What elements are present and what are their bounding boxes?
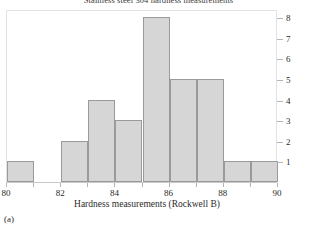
histogram-bar	[7, 161, 34, 182]
hardness-tick-mark	[169, 183, 170, 187]
hardness-tick-mark	[87, 183, 88, 187]
hardness-tick-mark	[33, 183, 34, 187]
hardness-tick-label: 80	[2, 189, 11, 198]
plot-area	[6, 10, 277, 183]
hardness-tick-label: 88	[218, 189, 227, 198]
histogram-bar	[115, 120, 142, 182]
hardness-tick-mark	[196, 183, 197, 187]
histogram-figure: Stainless steel 304 hardness measurement…	[0, 0, 317, 230]
hardness-tick-mark	[60, 183, 61, 187]
histogram-bar	[88, 100, 115, 183]
panel-letter: (a)	[4, 214, 14, 224]
histogram-bar	[224, 161, 251, 182]
hardness-axis-label: Hardness measurements (Rockwell B)	[0, 199, 294, 209]
histogram-bar	[197, 79, 224, 182]
chart-title: Stainless steel 304 hardness measurement…	[0, 0, 317, 5]
hardness-tick-label: 86	[164, 189, 173, 198]
hardness-tick-label: 90	[273, 189, 282, 198]
histogram-bar	[251, 161, 278, 182]
hardness-tick-mark	[114, 183, 115, 187]
histogram-bar	[170, 79, 197, 182]
count-axis-label-wrap: Count	[283, 10, 305, 183]
hardness-tick-mark	[6, 183, 7, 187]
hardness-tick-mark	[223, 183, 224, 187]
histogram-bar	[143, 17, 170, 182]
hardness-tick-mark	[250, 183, 251, 187]
hardness-tick-label: 82	[56, 189, 65, 198]
hardness-tick-mark	[142, 183, 143, 187]
hardness-tick-mark	[277, 183, 278, 187]
hardness-tick-label: 84	[110, 189, 119, 198]
histogram-bar	[61, 141, 88, 182]
bars-container	[7, 11, 276, 182]
